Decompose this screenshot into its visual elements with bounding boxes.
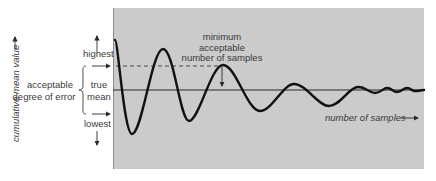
lowest-label: lowest [84, 118, 111, 129]
brace-icon [79, 66, 86, 114]
error-label-line2: degree of error [6, 91, 82, 102]
true-mean-label-line1: true [88, 79, 110, 90]
min-samples-label-line3: number of samples [180, 52, 264, 63]
min-samples-label-line1: minimum [186, 31, 258, 42]
true-mean-label-line2: mean [86, 91, 112, 102]
plot-panel [113, 8, 424, 169]
error-label-line1: acceptable [20, 79, 80, 90]
highest-label: highest [83, 48, 114, 59]
x-axis-label: number of samples [325, 112, 406, 123]
